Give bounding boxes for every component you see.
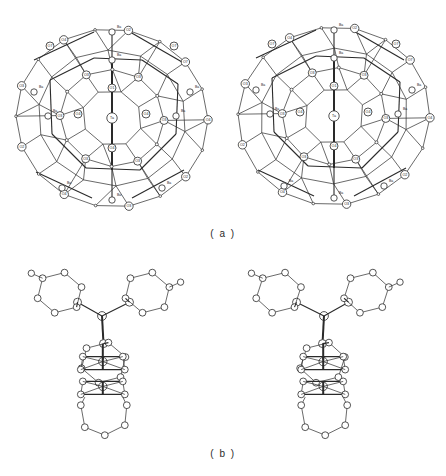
atom-node [187,89,193,95]
bond [139,96,158,107]
atom-node [381,183,387,189]
bond [67,92,83,108]
bond [52,58,77,77]
atom-label-external: Ba [403,107,407,111]
atom-node [81,424,88,431]
bond [116,178,148,185]
atom-node [337,66,340,69]
bond [238,114,242,145]
atom-node [347,275,354,282]
atom-node [111,68,114,71]
bond [126,128,141,143]
atom-node [285,137,288,140]
atom-label-external: Ba [389,179,393,183]
atom-label: O2 [352,26,357,30]
bond [354,168,406,196]
atom-label: O3 [302,155,307,159]
bond [102,302,129,316]
bond [202,120,208,150]
atom-node [397,279,403,285]
atom-node [66,90,69,93]
atom-node [253,87,259,93]
bond [41,135,57,162]
atom-label: O2 [19,145,24,149]
bond [361,105,362,127]
bond [245,57,263,84]
bond [164,120,208,121]
bond [83,92,98,107]
atom-node [77,402,84,409]
atom-label: O7 [48,44,53,48]
bond [276,75,291,90]
bond [263,57,276,75]
atom-node [161,304,168,311]
atom-node [424,86,427,89]
atom-node [123,402,130,409]
atom-node [302,424,309,431]
atom-node [380,92,383,95]
bond [301,386,323,394]
atom-label: O4 [76,112,81,116]
bond [139,107,141,129]
bond [84,180,116,186]
atom-label-external: Ba [117,25,121,29]
bond [321,142,329,164]
bond [39,174,65,194]
atom-node [298,402,305,409]
bond [381,94,406,99]
atom-node [177,279,183,285]
bond [361,126,376,142]
atom-label: O3 [362,73,367,77]
atom-node [51,309,58,316]
bond [52,77,67,92]
bond [302,48,334,55]
atom-label-external: Ba [117,193,121,197]
bond [57,162,84,180]
atom-node [149,269,156,276]
bond [39,162,57,174]
bond [83,108,85,130]
atom-label: O3 [58,114,63,118]
bond [321,28,354,29]
bond [316,56,364,58]
atom-node [322,432,329,439]
bond [238,103,262,115]
atom-node [344,402,351,409]
bond [386,118,430,119]
atom-label-external: Ba [181,109,185,113]
atom-label-external: Ba [339,191,343,195]
atom-node [37,173,40,176]
atom-node [156,94,159,97]
panel-b-caption: ( b ) [0,448,446,459]
atom-label: O1 [110,86,115,90]
panel-a-svg: TaO3O3O3O3O3O3O4O2O3O4O2O3O4O2O7O1O4O4O4… [0,0,446,232]
panel-b-svg [0,258,446,446]
atom-node [45,113,51,119]
atom-node [37,58,40,61]
bond [290,28,322,38]
bond [16,105,39,117]
atom-node [121,422,128,429]
atom-label: O3 [383,116,388,120]
bond [140,56,167,74]
atom-node [290,88,293,91]
atom-label: O2 [183,175,188,179]
bond [306,106,307,128]
bond [95,30,108,50]
atom-node [328,163,331,166]
atom-node [15,115,18,118]
atom-node [282,269,289,276]
bond [85,129,103,144]
atom-label-external: Ba [339,51,343,55]
atom-node [331,55,337,61]
atom-label-external: Ba [289,179,293,183]
atom-node [320,27,323,30]
atom-label: O4 [61,38,66,42]
atom-label: O3 [135,159,140,163]
bond [301,362,323,370]
atom-label: O7 [270,42,275,46]
bond [16,116,60,117]
bond [238,84,245,114]
atom-node [375,141,378,144]
bond [307,90,324,105]
